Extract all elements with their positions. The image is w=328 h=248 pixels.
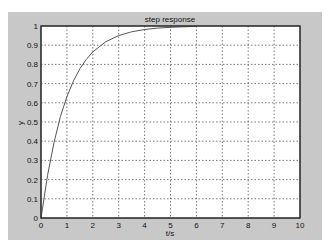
y-tick-label: 0 bbox=[34, 214, 39, 223]
x-tick-label: 9 bbox=[272, 221, 277, 230]
x-tick-label: 1 bbox=[65, 221, 70, 230]
y-tick-label: 0.7 bbox=[27, 80, 39, 89]
x-tick-label: 10 bbox=[296, 221, 305, 230]
x-tick-label: 3 bbox=[116, 221, 121, 230]
x-tick-label: 6 bbox=[194, 221, 199, 230]
x-tick-label: 7 bbox=[220, 221, 225, 230]
step-response-chart: 012345678910 00.10.20.30.40.50.60.70.80.… bbox=[0, 0, 328, 248]
x-tick-label: 4 bbox=[142, 221, 147, 230]
y-tick-label: 0.9 bbox=[27, 41, 39, 50]
y-axis-ticks: 00.10.20.30.40.50.60.70.80.91 bbox=[27, 22, 39, 223]
x-tick-label: 2 bbox=[91, 221, 96, 230]
y-tick-label: 0.4 bbox=[27, 137, 39, 146]
y-tick-label: 0.1 bbox=[27, 195, 39, 204]
y-tick-label: 0.5 bbox=[27, 118, 39, 127]
x-tick-label: 0 bbox=[39, 221, 44, 230]
x-axis-label: t/s bbox=[166, 229, 174, 238]
y-tick-label: 0.3 bbox=[27, 156, 39, 165]
x-tick-label: 8 bbox=[246, 221, 251, 230]
y-tick-label: 0.6 bbox=[27, 99, 39, 108]
y-tick-label: 0.8 bbox=[27, 60, 39, 69]
y-axis-label: y bbox=[16, 121, 25, 125]
y-tick-label: 0.2 bbox=[27, 176, 39, 185]
y-tick-label: 1 bbox=[34, 22, 39, 31]
chart-title: step response bbox=[145, 15, 196, 24]
